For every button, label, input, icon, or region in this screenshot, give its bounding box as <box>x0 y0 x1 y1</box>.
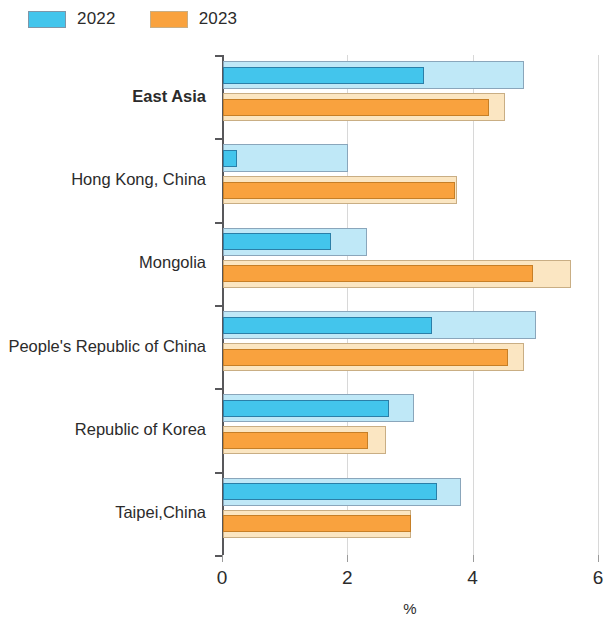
chart-legend: 2022 2023 <box>28 6 237 32</box>
bar-group-hong-kong-china[interactable]: Hong Kong, China <box>222 138 598 221</box>
x-tick-label-2: 2 <box>317 567 377 589</box>
x-tick-2 <box>347 555 348 562</box>
x-tick-label-6: 6 <box>568 567 606 589</box>
bar-2022-inner[interactable] <box>223 67 424 84</box>
category-label: Republic of Korea <box>0 420 206 438</box>
bar-group-mongolia[interactable]: Mongolia <box>222 222 598 305</box>
bar-2023-inner[interactable] <box>223 99 489 116</box>
bar-2022-inner[interactable] <box>223 483 437 500</box>
bar-group-people-s-republic-of-china[interactable]: People's Republic of China <box>222 305 598 388</box>
legend-label-2023: 2023 <box>199 9 238 29</box>
category-label: East Asia <box>0 87 206 105</box>
legend-swatch-2023 <box>150 11 188 28</box>
bar-group-taipei-china[interactable]: Taipei,China <box>222 472 598 555</box>
bar-2023-inner[interactable] <box>223 349 508 366</box>
bar-2022-inner[interactable] <box>223 233 331 250</box>
legend-label-2022: 2022 <box>77 9 116 29</box>
legend-item-2022: 2022 <box>28 9 116 29</box>
bar-2023-inner[interactable] <box>223 432 368 449</box>
bar-2022-inner[interactable] <box>223 400 389 417</box>
legend-item-2023: 2023 <box>150 9 238 29</box>
category-label: Taipei,China <box>0 503 206 521</box>
legend-swatch-2022 <box>28 11 66 28</box>
x-axis-title: % <box>222 600 598 617</box>
x-tick-4 <box>473 555 474 562</box>
gridline-6 <box>598 55 599 555</box>
bar-2022-inner[interactable] <box>223 150 237 167</box>
x-tick-label-4: 4 <box>443 567 503 589</box>
x-tick-label-0: 0 <box>192 567 252 589</box>
x-tick-0 <box>222 555 223 562</box>
bar-2022-outer[interactable] <box>223 144 348 172</box>
bar-2023-inner[interactable] <box>223 182 455 199</box>
bar-group-republic-of-korea[interactable]: Republic of Korea <box>222 388 598 471</box>
bar-2023-inner[interactable] <box>223 515 411 532</box>
category-label: Mongolia <box>0 253 206 271</box>
x-tick-6 <box>598 555 599 562</box>
bar-2023-inner[interactable] <box>223 265 533 282</box>
bar-chart-plot-area: East AsiaHong Kong, ChinaMongoliaPeople'… <box>222 55 598 555</box>
bar-2022-inner[interactable] <box>223 317 432 334</box>
category-label: People's Republic of China <box>0 337 206 355</box>
bar-group-east-asia[interactable]: East Asia <box>222 55 598 138</box>
category-label: Hong Kong, China <box>0 170 206 188</box>
